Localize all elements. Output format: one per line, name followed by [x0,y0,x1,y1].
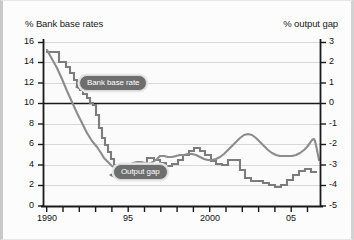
y-right-tick-1: 1 [329,77,354,87]
y-left-tick-14: 14 [8,56,34,66]
y-left-tick-12: 12 [8,77,34,87]
chart-inner-panel: % Bank base rates % output gap [3,1,351,239]
y-right-tick-neg3: -3 [329,159,354,169]
y-right-tick-neg1: -1 [329,118,354,128]
y-left-tick-2: 2 [8,179,34,189]
y-left-tick-8: 8 [8,118,34,128]
x-tick-95: 95 [103,213,153,223]
y-right-tick-neg2: -2 [329,138,354,148]
y-right-tick-3: 3 [329,36,354,46]
y-left-tick-4: 4 [8,159,34,169]
y-right-tick-0: 0 [329,97,354,107]
axis-overlay [3,1,354,240]
chart-figure: % Bank base rates % output gap [0,0,354,240]
x-tick-1990: 1990 [22,213,72,223]
y-left-tick-0: 0 [8,200,34,210]
y-right-tick-neg5: -5 [329,200,354,210]
callout-output-gap: Output gap [113,164,168,180]
x-tick-2000: 2000 [185,213,235,223]
y-right-tick-neg4: -4 [329,179,354,189]
callout-bank-base-rate: Bank base rate [79,75,147,91]
x-tick-05: 05 [266,213,316,223]
y-right-tick-2: 2 [329,56,354,66]
y-left-tick-6: 6 [8,138,34,148]
y-left-tick-10: 10 [8,97,34,107]
y-left-tick-16: 16 [8,36,34,46]
